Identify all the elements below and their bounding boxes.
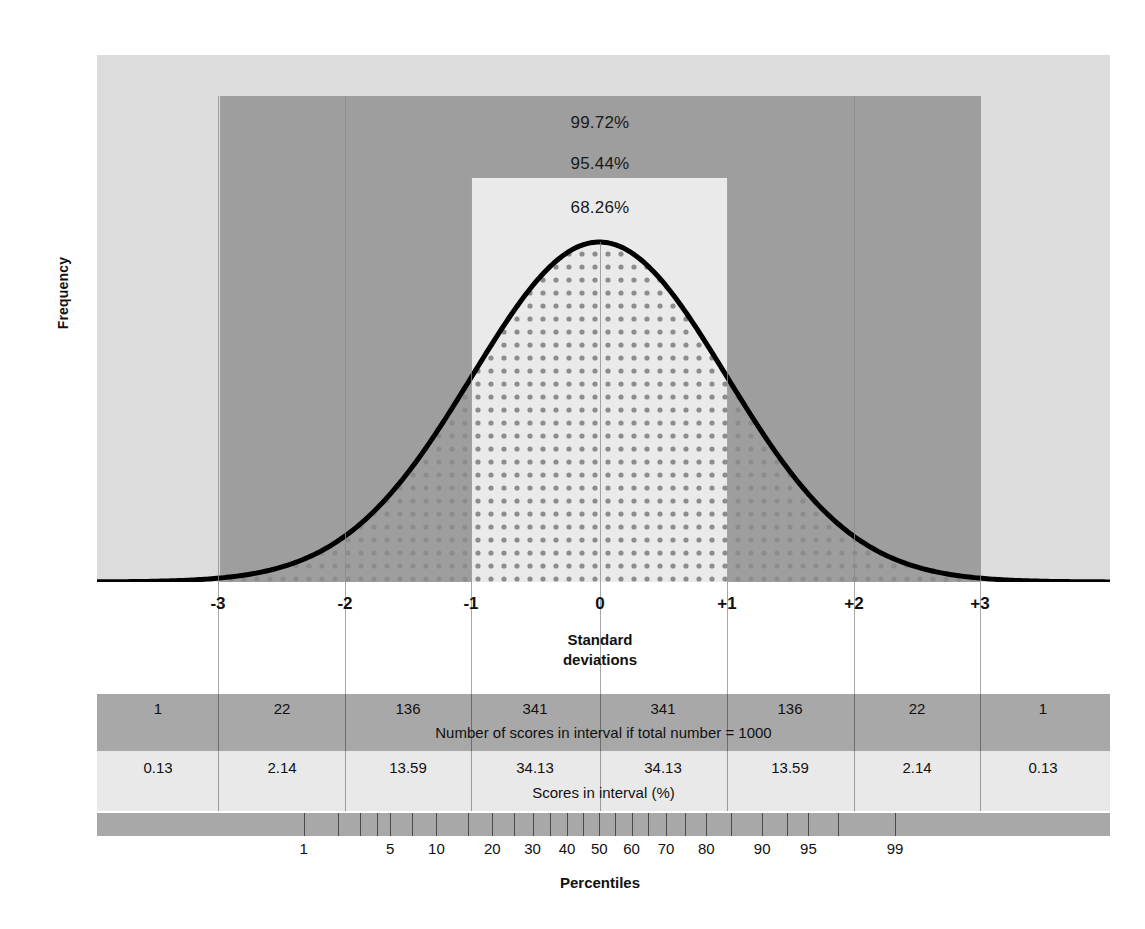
x-tick-pos1: +1 [687,594,767,614]
x-axis-caption-line1: Standard [520,630,680,650]
percentile-tick [685,813,686,836]
counts-row: 1 22 136 341 341 136 22 1 Number of scor… [97,694,1110,751]
x-tick-pos3: +3 [940,594,1020,614]
percentile-tick [615,813,616,836]
count-cell-4: 341 [475,700,595,717]
percentile-tick [838,813,839,836]
percentile-tick [360,813,361,836]
count-cell-5: 341 [603,700,723,717]
percentile-tick [533,813,534,836]
percentile-tick [599,813,600,836]
percentile-tick [304,813,305,836]
x-axis-caption: Standard deviations [520,630,680,670]
percent-cell-2: 2.14 [222,759,342,776]
normal-curve [97,55,1110,582]
percentile-tick [648,813,649,836]
percent-cell-4: 34.13 [475,759,595,776]
percentile-label-10: 10 [406,840,466,857]
percent-cell-5: 34.13 [603,759,723,776]
percent-cell-3: 13.59 [348,759,468,776]
percentile-tick [412,813,413,836]
percent-cell-1: 0.13 [98,759,218,776]
percentile-tick [550,813,551,836]
percentile-label-80: 80 [676,840,736,857]
percentile-label-95: 95 [778,840,838,857]
percent-cell-7: 2.14 [857,759,977,776]
percentile-tick [390,813,391,836]
count-cell-3: 136 [348,700,468,717]
percent-row: 0.13 2.14 13.59 34.13 34.13 13.59 2.14 0… [97,751,1110,811]
percentile-scale-strip [97,813,1110,836]
gridline-neg2 [345,96,346,582]
percentile-tick [762,813,763,836]
percent-cell-6: 13.59 [730,759,850,776]
percentile-tick [706,813,707,836]
percentile-tick [514,813,515,836]
gridline-zero [600,242,601,582]
percentile-tick [567,813,568,836]
gridline-neg3 [218,96,219,582]
percentile-tick [787,813,788,836]
gridline-pos1 [727,178,728,582]
gridline-neg1 [471,178,472,582]
x-tick-neg3: -3 [178,594,258,614]
percentile-tick [666,813,667,836]
count-cell-1: 1 [98,700,218,717]
percentile-tick [492,813,493,836]
percentile-tick [436,813,437,836]
percentile-tick [808,813,809,836]
figure-canvas: 99.72% 95.44% 68.26% Frequency -3 -2 -1 … [0,0,1145,929]
count-cell-7: 22 [857,700,977,717]
count-cell-8: 1 [983,700,1103,717]
percentile-label-99: 99 [865,840,925,857]
percentile-tick [468,813,469,836]
x-tick-zero: 0 [560,594,640,614]
percent-cell-8: 0.13 [983,759,1103,776]
x-tick-neg2: -2 [305,594,385,614]
percentile-tick [583,813,584,836]
percentile-label-1: 1 [274,840,334,857]
percentiles-caption: Percentiles [520,874,680,891]
percentile-tick [895,813,896,836]
percentile-tick [731,813,732,836]
counts-row-caption: Number of scores in interval if total nu… [97,724,1110,741]
count-cell-6: 136 [730,700,850,717]
percentile-tick [632,813,633,836]
percentile-tick [338,813,339,836]
y-axis-label: Frequency [55,223,71,363]
x-axis-caption-line2: deviations [520,650,680,670]
x-tick-neg1: -1 [431,594,511,614]
percent-row-caption: Scores in interval (%) [97,784,1110,801]
x-tick-pos2: +2 [814,594,894,614]
count-cell-2: 22 [222,700,342,717]
gridline-pos3 [980,96,981,582]
percentile-tick [377,813,378,836]
gridline-pos2 [854,96,855,582]
